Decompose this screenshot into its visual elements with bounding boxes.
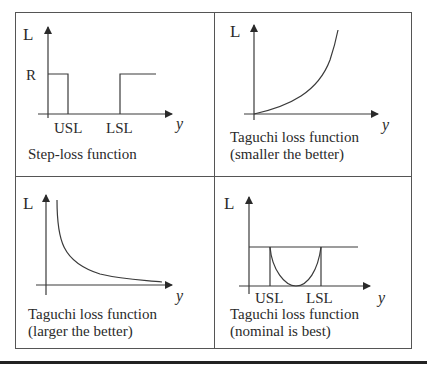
caption-line: (nominal is best) bbox=[230, 323, 359, 340]
y-axis-label: L bbox=[224, 194, 234, 213]
caption-line: Taguchi loss function bbox=[230, 306, 359, 323]
caption-line: Step-loss function bbox=[28, 146, 137, 163]
level-label-r: R bbox=[26, 67, 36, 83]
step-loss-curve-right bbox=[120, 74, 156, 114]
caption-larger-the-better: Taguchi loss function (larger the better… bbox=[28, 306, 157, 340]
caption-nominal-is-best: Taguchi loss function (nominal is best) bbox=[230, 306, 359, 340]
caption-line: (smaller the better) bbox=[230, 146, 359, 163]
y-axis-label: L bbox=[230, 22, 240, 41]
tick-label-lsl: LSL bbox=[306, 290, 333, 306]
caption-line: Taguchi loss function bbox=[28, 306, 157, 323]
x-axis-label: y bbox=[174, 287, 184, 305]
caption-line: Taguchi loss function bbox=[230, 129, 359, 146]
x-axis-label: y bbox=[380, 116, 390, 134]
panel-nominal-is-best: L USL LSL y bbox=[224, 194, 386, 307]
step-loss-curve bbox=[48, 74, 68, 114]
x-axis-label: y bbox=[376, 289, 386, 307]
tick-label-usl: USL bbox=[255, 290, 283, 306]
caption-line: (larger the better) bbox=[28, 323, 157, 340]
y-axis-label: L bbox=[23, 25, 33, 44]
caption-smaller-the-better: Taguchi loss function (smaller the bette… bbox=[230, 129, 359, 163]
caption-step-loss: Step-loss function bbox=[28, 146, 137, 163]
panel-larger-the-better: L y bbox=[23, 194, 184, 305]
tick-label-lsl: LSL bbox=[106, 120, 133, 136]
quadratic-loss-curve bbox=[254, 30, 338, 114]
x-axis-label: y bbox=[174, 115, 184, 133]
tick-label-usl: USL bbox=[54, 120, 82, 136]
inverse-loss-curve bbox=[57, 200, 162, 282]
panel-step-loss: L R USL LSL y bbox=[23, 25, 184, 136]
panel-smaller-the-better: L y bbox=[230, 22, 390, 134]
y-axis-label: L bbox=[23, 194, 33, 213]
parabolic-loss-curve bbox=[270, 247, 321, 286]
